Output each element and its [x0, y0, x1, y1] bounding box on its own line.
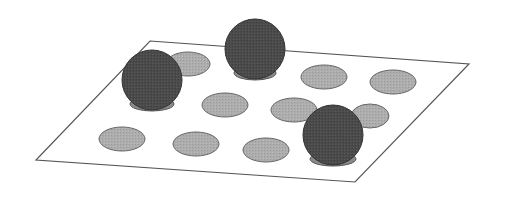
sphere [303, 105, 363, 166]
sphere [225, 19, 285, 80]
sphere-body [303, 105, 363, 165]
disc [202, 93, 248, 117]
sphere-body [225, 19, 285, 79]
sphere [122, 50, 182, 111]
disc [301, 65, 347, 89]
sphere-body [122, 50, 182, 110]
disc [370, 70, 416, 94]
disc [99, 127, 145, 151]
disc [173, 132, 219, 156]
diagram-canvas [0, 0, 506, 199]
disc [243, 138, 289, 162]
